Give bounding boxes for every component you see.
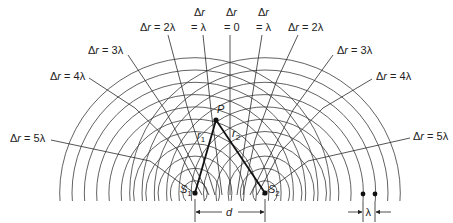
label-left-5: Δr = 5λ <box>10 132 46 144</box>
wavelength-label: λ <box>366 206 372 218</box>
wavelength-marker: λ <box>348 192 391 222</box>
wavelength-dot-2 <box>373 192 378 197</box>
label-center-0-top: Δr <box>226 6 238 18</box>
label-left-2: Δr = 2λ <box>140 21 176 33</box>
label-right-5: Δr = 5λ <box>413 130 449 142</box>
separation-label: d <box>226 206 233 218</box>
label-right-1-bottom: = λ <box>256 21 271 33</box>
nodal-line-left-4 <box>89 78 202 195</box>
wavelength-dot-1 <box>361 192 366 197</box>
source-s1-label: S1 <box>180 183 192 198</box>
label-right-4: Δr = 4λ <box>376 70 412 82</box>
nodal-lines <box>51 35 410 195</box>
label-right-3: Δr = 3λ <box>337 44 373 56</box>
separation-dimension: d <box>195 199 265 222</box>
source-s1-dot <box>192 190 197 195</box>
point-p-dot <box>213 117 218 122</box>
label-left-4: Δr = 4λ <box>50 70 86 82</box>
source-s2-label: S2 <box>268 183 280 198</box>
label-right-2: Δr = 2λ <box>288 21 324 33</box>
label-right-1-top: Δr <box>258 6 270 18</box>
label-left-1-bottom: = λ <box>191 21 206 33</box>
point-p-label: P <box>217 103 225 115</box>
nodal-line-right-4 <box>257 79 372 195</box>
source-s2-dot <box>262 190 267 195</box>
label-left-1-top: Δr <box>194 6 206 18</box>
label-left-3: Δr = 3λ <box>88 44 124 56</box>
r2-label: r2 <box>232 127 241 142</box>
interference-diagram: P r1 r2 S1 S2 d λ Δr = 5λ Δr = 4λ Δr = 3… <box>0 0 453 223</box>
label-center-0-bottom: = 0 <box>224 21 240 33</box>
